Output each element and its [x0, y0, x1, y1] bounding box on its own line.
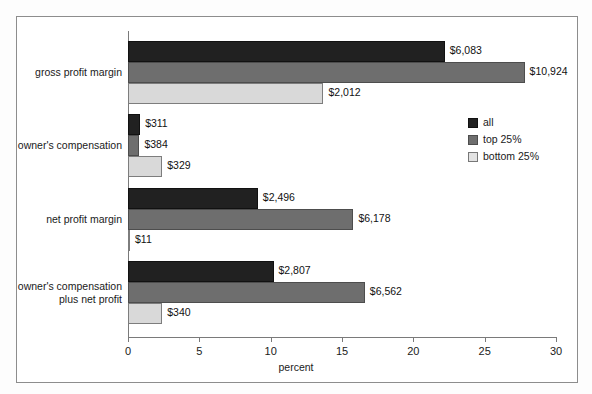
bar-row: $6,562: [128, 282, 556, 303]
bar-value-label: $6,562: [370, 285, 402, 297]
legend-label-all: all: [483, 116, 494, 128]
x-tick-mark: [199, 337, 200, 342]
x-tick-mark: [128, 337, 129, 342]
bar[interactable]: [128, 282, 365, 303]
legend-swatch-all-icon: [468, 118, 478, 128]
bar-value-label: $329: [167, 159, 190, 171]
bar[interactable]: [128, 303, 162, 324]
x-tick-mark: [556, 337, 557, 342]
bar-value-label: $6,178: [358, 212, 390, 224]
bar-value-label: $6,083: [450, 44, 482, 56]
x-tick-mark: [413, 337, 414, 342]
bar-value-label: $2,496: [263, 191, 295, 203]
bar-value-label: $340: [167, 306, 190, 318]
bar-group: owner's compensation plus net profit$2,8…: [0, 261, 592, 324]
category-label: owner's compensation: [0, 139, 122, 152]
bar-value-label: $10,924: [530, 65, 568, 77]
bar-value-label: $11: [135, 233, 152, 245]
bar-value-label: $2,807: [279, 264, 311, 276]
x-tick-label: 0: [125, 345, 131, 357]
x-tick-mark: [342, 337, 343, 342]
bar-group: owner's compensation$311$384$329: [0, 114, 592, 177]
x-tick-label: 15: [336, 345, 348, 357]
plot-area: 051015202530 percent gross profit margin…: [0, 0, 592, 394]
x-tick-label: 20: [407, 345, 419, 357]
bar[interactable]: [128, 135, 139, 156]
legend-swatch-bottom25-icon: [468, 152, 478, 162]
bar[interactable]: [128, 230, 130, 251]
chart-root: 051015202530 percent gross profit margin…: [0, 0, 592, 394]
x-tick-label: 5: [196, 345, 202, 357]
bar[interactable]: [128, 41, 445, 62]
bar-value-label: $2,012: [328, 86, 360, 98]
bar[interactable]: [128, 188, 258, 209]
category-label: net profit margin: [0, 213, 122, 226]
legend-label-bottom25: bottom 25%: [483, 150, 539, 162]
x-tick-label: 25: [479, 345, 491, 357]
x-tick-label: 30: [550, 345, 562, 357]
bar-group: gross profit margin$6,083$10,924$2,012: [0, 41, 592, 104]
bar-row: $2,496: [128, 188, 556, 209]
bar[interactable]: [128, 209, 353, 230]
bar[interactable]: [128, 261, 274, 282]
bar-group: net profit margin$2,496$6,178$11: [0, 188, 592, 251]
bar-row: $10,924: [128, 62, 556, 83]
x-axis-title: percent: [0, 361, 592, 373]
bar-value-label: $384: [144, 138, 167, 150]
x-tick-mark: [485, 337, 486, 342]
category-label: gross profit margin: [0, 66, 122, 79]
bar-row: $11: [128, 230, 556, 251]
category-label: owner's compensation plus net profit: [0, 280, 122, 305]
bar-row: $6,083: [128, 41, 556, 62]
bar-value-label: $311: [145, 117, 168, 129]
bar-row: $6,178: [128, 209, 556, 230]
bar[interactable]: [128, 83, 323, 104]
x-tick-label: 10: [265, 345, 277, 357]
x-tick-mark: [271, 337, 272, 342]
bar-row: $2,012: [128, 83, 556, 104]
bar[interactable]: [128, 114, 140, 135]
legend-label-top25: top 25%: [483, 133, 522, 145]
bar[interactable]: [128, 156, 162, 177]
bar-row: $2,807: [128, 261, 556, 282]
bar[interactable]: [128, 62, 525, 83]
legend-swatch-top25-icon: [468, 135, 478, 145]
bar-row: $340: [128, 303, 556, 324]
